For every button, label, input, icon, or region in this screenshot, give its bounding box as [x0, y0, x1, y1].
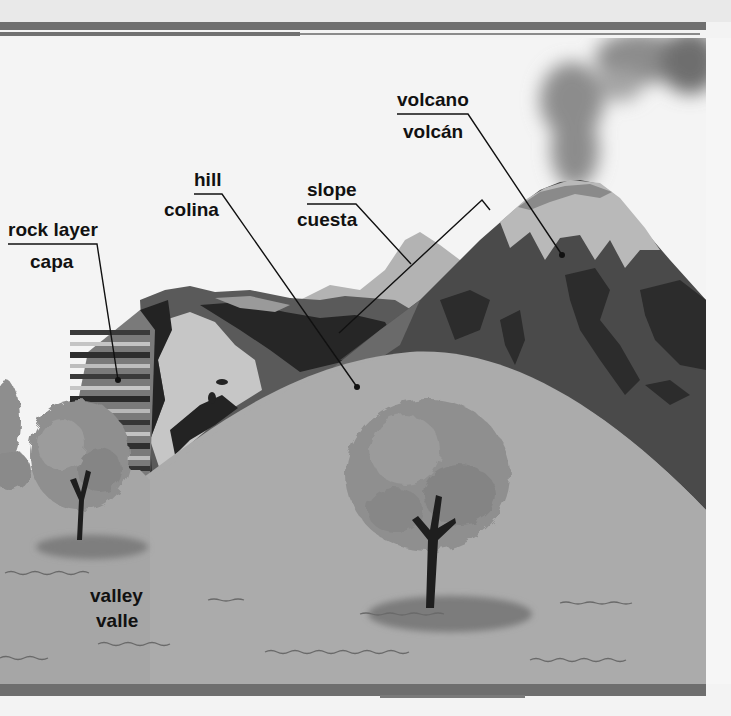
label-volcano-en: volcano — [397, 89, 469, 110]
top-border-thin — [0, 32, 300, 36]
right-margin — [706, 38, 731, 684]
label-valley-en: valley — [90, 585, 143, 606]
label-volcano-es: volcán — [403, 121, 463, 142]
leader-dot-rock-layer — [115, 377, 121, 383]
label-hill-en: hill — [194, 169, 221, 190]
tree-shadow — [368, 596, 532, 632]
bottom-border-band — [0, 684, 706, 696]
cliff-rock-spot — [208, 392, 216, 404]
top-margin — [0, 0, 731, 22]
cliff-rock-spot — [216, 379, 228, 385]
bottom-border-thin — [380, 695, 525, 698]
leader-dot-volcano — [559, 252, 565, 258]
leader-dot-hill — [354, 384, 360, 390]
top-border-band — [0, 22, 706, 30]
top-border-thin — [300, 33, 700, 35]
label-slope-en: slope — [307, 179, 357, 200]
label-rock-layer-en: rock layer — [8, 219, 98, 240]
label-slope-es: cuesta — [297, 209, 358, 230]
landform-diagram: volcano volcán hill colina slope cuesta … — [0, 0, 731, 716]
label-hill-es: colina — [164, 199, 219, 220]
tree-shadow — [36, 535, 148, 559]
label-rock-layer-es: capa — [30, 251, 74, 272]
label-valley-es: valle — [96, 610, 138, 631]
